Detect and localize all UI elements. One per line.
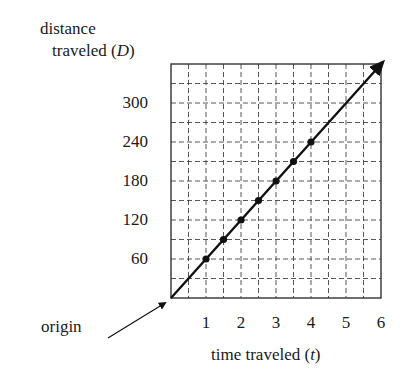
data-point bbox=[202, 255, 209, 262]
origin-arrow-icon bbox=[108, 303, 165, 338]
data-point bbox=[220, 236, 227, 243]
data-point bbox=[237, 216, 244, 223]
data-point bbox=[272, 177, 279, 184]
plot-area bbox=[0, 0, 404, 392]
data-point bbox=[307, 138, 314, 145]
data-point bbox=[290, 158, 297, 165]
data-point bbox=[255, 197, 262, 204]
